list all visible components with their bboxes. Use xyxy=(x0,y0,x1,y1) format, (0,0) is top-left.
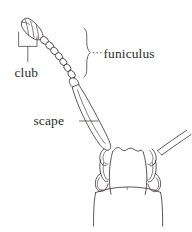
pronotum-left-side xyxy=(94,193,96,226)
scape-outline xyxy=(72,85,110,150)
club-label: club xyxy=(15,65,39,80)
pronotum-right-side xyxy=(161,192,163,226)
scrobe-left-inner xyxy=(103,150,108,164)
funiculus-brace xyxy=(84,28,90,77)
antenna-diagram: Weevil antenna structure diagram xyxy=(0,0,192,232)
scape-label: scape xyxy=(34,113,64,128)
scape-part xyxy=(72,85,110,150)
scrobe-right-inner xyxy=(148,151,153,165)
funiculus-annotation: funiculus xyxy=(84,28,155,77)
funiculus-label: funiculus xyxy=(104,46,155,61)
club-part xyxy=(21,18,42,40)
club-outline xyxy=(21,18,42,40)
gena-right-inner xyxy=(154,178,159,191)
funiculus-part xyxy=(39,35,79,88)
opposite-antenna xyxy=(158,130,191,155)
gena-left-inner xyxy=(97,178,102,191)
rostrum-anterior-margin xyxy=(113,148,144,153)
rostrum-part xyxy=(94,148,163,226)
opposite-scape-tip xyxy=(158,151,162,155)
figure-container: Weevil antenna structure diagram xyxy=(0,0,192,232)
